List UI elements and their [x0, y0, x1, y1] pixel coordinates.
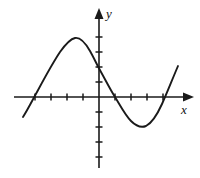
- cartesian-plot: y x: [0, 0, 200, 178]
- x-axis-label: x: [180, 102, 187, 117]
- graph-figure: y x: [0, 0, 200, 178]
- x-axis-arrow-icon: [183, 93, 194, 102]
- y-axis-label: y: [104, 6, 112, 21]
- y-axis-arrow-icon: [95, 8, 104, 19]
